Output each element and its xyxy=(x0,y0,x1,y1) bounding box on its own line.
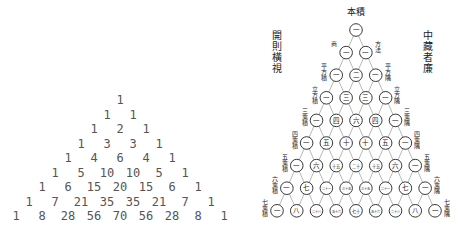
numeral-circle: 四 xyxy=(330,114,343,127)
numeral-circle: 一 xyxy=(310,114,323,127)
svg-text:四: 四 xyxy=(333,117,340,125)
left-edge-label: 六乘積 xyxy=(272,176,278,194)
left-edge-label: 七乘積 xyxy=(262,199,268,217)
left-edge-label: 平方積 xyxy=(321,63,327,81)
triangle-cell: 1 xyxy=(51,167,58,179)
svg-text:二十一: 二十一 xyxy=(381,186,391,191)
triangle-cell: 20 xyxy=(113,181,127,193)
svg-text:三: 三 xyxy=(343,94,350,102)
svg-text:八: 八 xyxy=(412,207,419,215)
svg-text:六: 六 xyxy=(353,116,360,125)
triangle-cell: 8 xyxy=(38,210,45,222)
numeral-circle: 一 xyxy=(271,205,284,218)
numeral-circle: 一 xyxy=(369,69,382,82)
triangle-cell: 3 xyxy=(129,138,136,150)
numeral-circle: 七 xyxy=(300,182,313,195)
numeral-circle: 一 xyxy=(281,182,294,195)
numeral-circle: 二 xyxy=(350,69,363,82)
right-title: 中藏者廉 xyxy=(421,30,431,74)
numeral-circle: 三 xyxy=(360,92,373,105)
svg-text:一: 一 xyxy=(432,207,439,215)
triangle-cell: 1 xyxy=(116,94,123,106)
triangle-cell: 1 xyxy=(38,181,45,193)
triangle-cell: 1 xyxy=(12,210,19,222)
triangle-cell: 7 xyxy=(51,196,58,208)
triangle-cell: 28 xyxy=(165,210,179,222)
numeral-circle: 十 xyxy=(340,137,353,150)
right-edge-label: 方法 xyxy=(374,41,380,53)
numeral-circle: 七十 xyxy=(350,205,363,218)
left-title: 開則橫視 xyxy=(270,30,280,74)
left-edge-label: 立方積 xyxy=(311,86,317,104)
triangle-cell: 15 xyxy=(87,181,101,193)
svg-text:一: 一 xyxy=(313,117,320,125)
triangle-cell: 5 xyxy=(155,167,162,179)
numeral-circle: 一 xyxy=(409,159,422,172)
triangle-cell: 56 xyxy=(87,210,101,222)
triangle-cell: 4 xyxy=(142,152,149,164)
triangle-cell: 1 xyxy=(103,109,110,121)
svg-text:三十五: 三十五 xyxy=(342,186,352,191)
numeral-circle: 二十一 xyxy=(379,182,392,195)
svg-text:六: 六 xyxy=(313,161,320,170)
triangle-cell: 10 xyxy=(100,167,114,179)
numeral-circle: 二十八 xyxy=(389,205,402,218)
triangle-cell: 1 xyxy=(129,109,136,121)
svg-text:五十六: 五十六 xyxy=(371,209,381,214)
numeral-circle: 二十八 xyxy=(310,205,323,218)
svg-text:五十六: 五十六 xyxy=(332,209,342,214)
svg-text:一: 一 xyxy=(362,49,369,57)
numeral-circle: 七 xyxy=(399,182,412,195)
right-edge-label: 五乘隅 xyxy=(424,154,430,172)
numeral-circle: 三 xyxy=(340,92,353,105)
svg-text:一: 一 xyxy=(353,26,360,34)
svg-text:二十八: 二十八 xyxy=(312,209,322,214)
numeral-circle: 一 xyxy=(419,182,432,195)
svg-text:十: 十 xyxy=(343,138,350,147)
numeral-circle: 八 xyxy=(290,205,303,218)
svg-text:六: 六 xyxy=(392,161,399,170)
numeral-circle: 二十 xyxy=(350,159,363,172)
left-edge-label: 三乘積 xyxy=(301,108,307,126)
svg-text:五: 五 xyxy=(323,139,330,147)
triangle-cell: 5 xyxy=(77,167,84,179)
numeral-circle: 十五 xyxy=(369,159,382,172)
triangle-cell: 7 xyxy=(181,196,188,208)
svg-text:一: 一 xyxy=(303,139,310,147)
numeral-circle: 六 xyxy=(389,159,402,172)
svg-text:一: 一 xyxy=(323,94,330,102)
svg-text:一: 一 xyxy=(392,117,399,125)
left-edge-label: 四乘積 xyxy=(291,131,297,149)
triangle-cell: 21 xyxy=(74,196,88,208)
svg-text:七: 七 xyxy=(303,183,310,192)
numeral-circle: 三十五 xyxy=(340,182,353,195)
svg-text:五: 五 xyxy=(382,139,389,147)
numeral-circle: 一 xyxy=(360,46,373,59)
left-edge-label: 五乘積 xyxy=(281,154,287,172)
triangle-cell: 1 xyxy=(207,196,214,208)
right-edge-label: 平方隅 xyxy=(384,63,390,81)
triangle-cell: 1 xyxy=(220,210,227,222)
triangle-cell: 6 xyxy=(168,181,175,193)
triangle-cell: 2 xyxy=(116,123,123,135)
numeral-circle: 六 xyxy=(310,159,323,172)
svg-text:二: 二 xyxy=(353,71,360,79)
modern-pascal-triangle: 1111211331146411510105116152015611721353… xyxy=(0,0,240,238)
triangle-cell: 70 xyxy=(113,210,127,222)
numeral-circle: 五 xyxy=(379,137,392,150)
triangle-cell: 6 xyxy=(116,152,123,164)
triangle-cell: 28 xyxy=(61,210,75,222)
numeral-circle: 一 xyxy=(429,205,442,218)
svg-text:一: 一 xyxy=(402,139,409,147)
svg-text:十: 十 xyxy=(362,138,369,147)
svg-text:十五: 十五 xyxy=(372,163,380,170)
numeral-circle: 四 xyxy=(369,114,382,127)
triangle-cell: 1 xyxy=(25,196,32,208)
svg-text:一: 一 xyxy=(274,207,281,215)
numeral-circle: 一 xyxy=(300,137,313,150)
triangle-cell: 35 xyxy=(126,196,140,208)
svg-text:一: 一 xyxy=(343,49,350,57)
numeral-circle: 五十六 xyxy=(369,205,382,218)
triangle-cell: 56 xyxy=(139,210,153,222)
right-edge-label: 七乘隅 xyxy=(443,199,449,217)
